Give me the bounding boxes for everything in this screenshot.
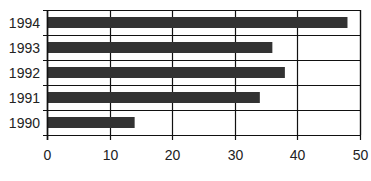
x-tick-label: 10 bbox=[103, 147, 119, 163]
x-tick-label: 20 bbox=[165, 147, 181, 163]
y-tick-labels: 19941993199219911990 bbox=[9, 15, 40, 131]
x-tick-label: 0 bbox=[44, 147, 52, 163]
bar-1993 bbox=[48, 42, 272, 53]
y-tick-label: 1990 bbox=[9, 115, 40, 131]
bar-chart: 19941993199219911990 01020304050 bbox=[0, 0, 371, 181]
bars bbox=[48, 17, 347, 128]
x-tick-label: 30 bbox=[228, 147, 244, 163]
x-tick-labels: 01020304050 bbox=[44, 147, 369, 163]
bar-1991 bbox=[48, 92, 260, 103]
y-tick-label: 1991 bbox=[9, 90, 40, 106]
y-tick-label: 1994 bbox=[9, 15, 40, 31]
x-tick-label: 40 bbox=[290, 147, 306, 163]
y-tick-label: 1993 bbox=[9, 40, 40, 56]
bar-1994 bbox=[48, 17, 347, 28]
bar-1992 bbox=[48, 67, 285, 78]
x-tick-label: 50 bbox=[353, 147, 369, 163]
y-tick-label: 1992 bbox=[9, 65, 40, 81]
bar-1990 bbox=[48, 117, 135, 128]
